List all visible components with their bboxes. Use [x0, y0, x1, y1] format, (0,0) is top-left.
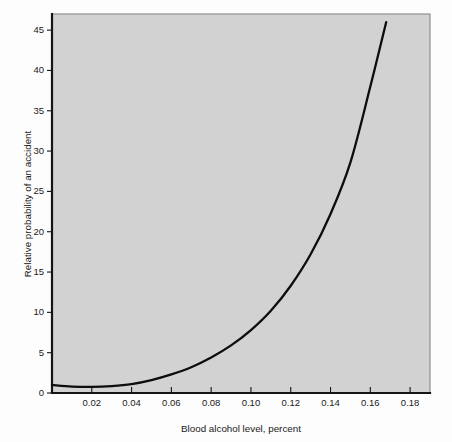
y-tick-label: 5 — [39, 347, 44, 358]
y-tick-label: 0 — [39, 387, 44, 398]
y-tick-label: 20 — [33, 226, 44, 237]
x-tick-label: 0.12 — [281, 397, 300, 408]
y-tick-label: 45 — [33, 24, 44, 35]
accident-probability-line-chart: 051015202530354045 0.020.040.060.080.100… — [0, 0, 452, 442]
y-tick-label: 25 — [33, 185, 44, 196]
y-tick-label: 30 — [33, 145, 44, 156]
y-tick-label: 15 — [33, 266, 44, 277]
x-tick-label: 0.14 — [321, 397, 340, 408]
x-tick-label: 0.16 — [361, 397, 380, 408]
x-tick-label: 0.10 — [242, 397, 261, 408]
y-tick-label: 40 — [33, 64, 44, 75]
y-axis-title: Relative probability of an accident — [22, 130, 33, 277]
x-tick-label: 0.08 — [202, 397, 221, 408]
x-tick-label: 0.04 — [122, 397, 141, 408]
chart-figure: 051015202530354045 0.020.040.060.080.100… — [0, 0, 452, 442]
x-axis-title: Blood alcohol level, percent — [181, 423, 301, 434]
x-tick-label: 0.06 — [162, 397, 181, 408]
y-axis-ticks: 051015202530354045 — [33, 24, 52, 398]
y-tick-label: 35 — [33, 105, 44, 116]
x-tick-label: 0.02 — [83, 397, 102, 408]
x-tick-label: 0.18 — [401, 397, 420, 408]
y-tick-label: 10 — [33, 306, 44, 317]
